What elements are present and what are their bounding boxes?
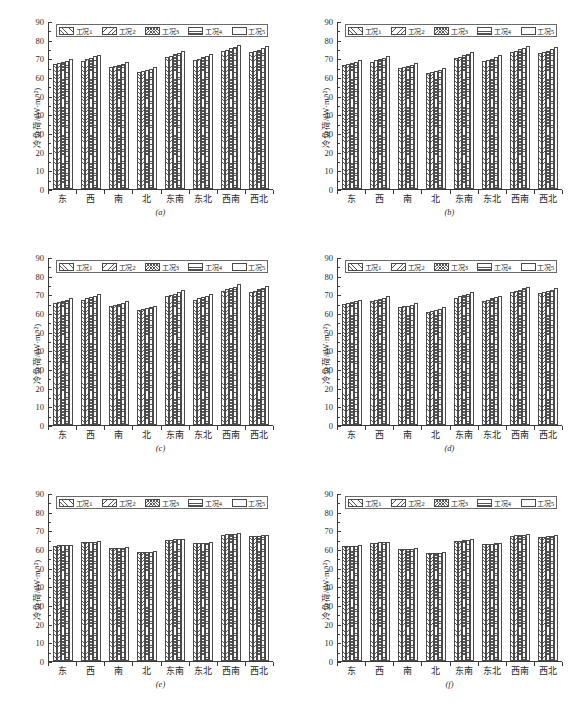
legend-label: 工况5 <box>537 262 554 272</box>
legend: 工况1工况2工况3工况4工况5 <box>56 260 268 273</box>
plot-area: 0102030405060708090 <box>337 22 562 190</box>
legend-swatch-cross-hatch-icon <box>145 499 160 507</box>
bar-group-东 <box>53 494 74 661</box>
bar-group-西北 <box>538 22 559 189</box>
y-tick-label: 20 <box>36 384 45 393</box>
y-axis-title: 冷负荷/(W·m⁻²) <box>319 560 331 620</box>
bar-group-南 <box>109 494 130 661</box>
legend-label: 工况2 <box>408 262 425 272</box>
chart-panel-e: 冷负荷/(W·m⁻²)0102030405060708090东西南北东南东北西南… <box>0 472 289 708</box>
x-tick <box>562 662 563 666</box>
y-tick-label: 60 <box>325 74 334 83</box>
x-tick-label: 东 <box>49 428 76 441</box>
bar <box>265 286 269 425</box>
bar <box>265 535 269 661</box>
y-tick-label: 70 <box>325 291 334 300</box>
legend-item-工况2: 工况2 <box>102 262 135 272</box>
x-tick-label: 东南 <box>161 192 188 205</box>
x-axis-labels: 东西南北东南东北西南西北 <box>48 192 273 205</box>
bar <box>526 534 530 661</box>
x-tick-label: 北 <box>133 428 160 441</box>
legend-swatch-back-diagonal-icon <box>391 263 406 271</box>
bar-group-北 <box>137 494 158 661</box>
legend-item-工况4: 工况4 <box>188 26 221 36</box>
legend-swatch-cross-hatch-icon <box>434 499 449 507</box>
legend-swatch-horizontal-icon <box>188 27 203 35</box>
legend-swatch-forward-diagonal-icon <box>59 499 74 507</box>
bar <box>526 46 530 189</box>
legend-item-工况2: 工况2 <box>102 26 135 36</box>
bar-group-西 <box>370 494 391 661</box>
bar <box>386 56 390 189</box>
x-tick-label: 西南 <box>217 192 244 205</box>
x-tick-label: 东 <box>338 192 365 205</box>
legend-swatch-blank-icon <box>521 263 536 271</box>
legend-label: 工况5 <box>248 498 265 508</box>
legend-label: 工况2 <box>408 498 425 508</box>
legend-item-工况5: 工况5 <box>232 262 265 272</box>
bar <box>414 548 418 661</box>
legend-swatch-horizontal-icon <box>477 499 492 507</box>
legend: 工况1工况2工况3工况4工况5 <box>345 24 557 37</box>
legend-swatch-horizontal-icon <box>188 499 203 507</box>
legend-item-工况2: 工况2 <box>102 498 135 508</box>
bar-group-北 <box>426 22 447 189</box>
bar-group-东北 <box>482 494 503 661</box>
legend-label: 工况2 <box>119 498 136 508</box>
bar-group-东南 <box>454 258 475 425</box>
y-tick-label: 70 <box>36 527 45 536</box>
x-tick <box>562 190 563 194</box>
bar-group-南 <box>398 22 419 189</box>
panel-caption-d: (d) <box>337 443 562 453</box>
bar <box>265 46 269 189</box>
legend-label: 工况4 <box>494 498 511 508</box>
legend: 工况1工况2工况3工况4工况5 <box>345 260 557 273</box>
legend-swatch-forward-diagonal-icon <box>59 27 74 35</box>
x-tick-label: 东北 <box>189 428 216 441</box>
y-tick-label: 80 <box>325 36 334 45</box>
legend-label: 工况3 <box>451 262 468 272</box>
bar-group-南 <box>109 22 130 189</box>
legend-label: 工况1 <box>76 498 93 508</box>
y-axis-title: 冷负荷/(W·m⁻²) <box>30 560 42 620</box>
bar <box>181 539 185 661</box>
legend-item-工况1: 工况1 <box>59 26 92 36</box>
legend-item-工况4: 工况4 <box>188 498 221 508</box>
legend-label: 工况3 <box>162 262 179 272</box>
legend-item-工况1: 工况1 <box>348 498 381 508</box>
legend-swatch-back-diagonal-icon <box>102 27 117 35</box>
x-tick-label: 南 <box>105 664 132 677</box>
legend-swatch-forward-diagonal-icon <box>348 263 363 271</box>
bar-group-南 <box>109 258 130 425</box>
bar <box>125 62 129 189</box>
legend-swatch-cross-hatch-icon <box>145 27 160 35</box>
x-axis-labels: 东西南北东南东北西南西北 <box>48 428 273 441</box>
plot-area: 0102030405060708090 <box>337 494 562 662</box>
bar-group-西南 <box>510 258 531 425</box>
legend-swatch-forward-diagonal-icon <box>348 27 363 35</box>
bar-groups <box>338 494 562 661</box>
plot-area: 0102030405060708090 <box>48 494 273 662</box>
legend-swatch-cross-hatch-icon <box>434 263 449 271</box>
legend-label: 工况3 <box>162 26 179 36</box>
bar <box>442 68 446 189</box>
y-tick-label: 0 <box>329 422 333 431</box>
legend-item-工况4: 工况4 <box>477 262 510 272</box>
bar <box>470 539 474 661</box>
legend-item-工况4: 工况4 <box>188 262 221 272</box>
legend-item-工况2: 工况2 <box>391 26 424 36</box>
bar <box>153 551 157 661</box>
x-tick <box>562 426 563 430</box>
bar-groups <box>338 22 562 189</box>
legend-label: 工况1 <box>365 262 382 272</box>
bar-group-北 <box>426 258 447 425</box>
bar <box>125 547 129 661</box>
x-tick-label: 北 <box>133 192 160 205</box>
legend-swatch-blank-icon <box>232 27 247 35</box>
bar-group-西南 <box>221 22 242 189</box>
bar <box>358 300 362 425</box>
y-tick-label: 0 <box>40 422 44 431</box>
y-tick-label: 80 <box>36 272 45 281</box>
legend-swatch-back-diagonal-icon <box>102 499 117 507</box>
y-tick-label: 10 <box>325 639 334 648</box>
